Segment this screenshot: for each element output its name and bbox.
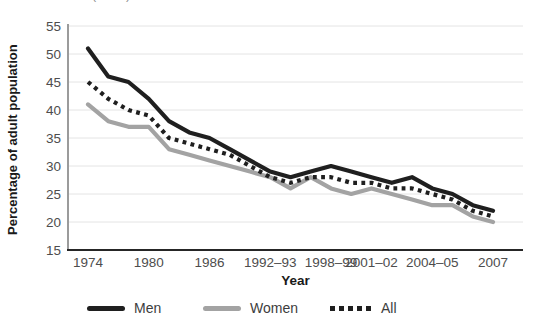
x-tick-label: 1992–93: [244, 255, 297, 270]
smoking-prevalence-chart: Source: ONS (2008) Percentage of adult p…: [0, 0, 534, 327]
y-tick-label: 15: [46, 243, 61, 258]
x-tick-label: 2001–02: [345, 255, 398, 270]
legend-label-all: All: [381, 300, 397, 316]
all-dotted-swatch: [330, 306, 372, 311]
legend-label-women: Women: [250, 300, 298, 316]
x-tick-label: 2004–05: [406, 255, 459, 270]
x-tick-label: 1974: [73, 255, 104, 270]
y-tick-label: 30: [46, 159, 61, 174]
women-line-swatch: [203, 306, 241, 311]
series-line-all: [88, 82, 493, 216]
y-tick-label: 40: [46, 103, 61, 118]
series-line-women: [88, 104, 493, 222]
y-tick-label: 55: [46, 19, 61, 34]
x-tick-label: 1980: [134, 255, 164, 270]
y-tick-label: 45: [46, 75, 61, 90]
x-tick-label: 2007: [478, 255, 508, 270]
y-tick-label: 20: [46, 215, 61, 230]
legend-item-men: Men: [87, 297, 161, 319]
legend-label-men: Men: [134, 300, 161, 316]
x-tick-label: 1986: [194, 255, 224, 270]
y-tick-label: 35: [46, 131, 61, 146]
legend-item-women: Women: [203, 297, 298, 319]
men-line-swatch: [87, 306, 125, 311]
x-axis-title: Year: [68, 273, 523, 288]
y-tick-label: 50: [46, 47, 61, 62]
y-tick-label: 25: [46, 187, 61, 202]
chart-legend: Men Women All: [0, 297, 534, 323]
legend-item-all: All: [330, 297, 397, 319]
